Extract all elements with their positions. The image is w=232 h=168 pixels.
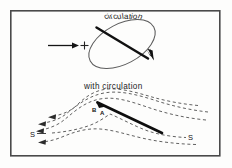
point-label-b: B <box>92 107 96 113</box>
streamline-upper-2-arrow <box>38 121 46 126</box>
chord-line <box>97 28 149 59</box>
figure-root: circulation circulation with circulation… <box>0 0 232 168</box>
streamline-lower-2-arrow <box>38 140 46 145</box>
streamline-upper-2 <box>44 92 208 123</box>
stagnation-label-left: S <box>30 130 35 139</box>
streamline-lower-1 <box>52 114 186 138</box>
plus-marker <box>81 42 89 50</box>
point-label-a: A <box>100 110 104 116</box>
streamline-upper-1-arrow <box>36 128 44 133</box>
stagnation-label-right: S <box>188 133 193 142</box>
airfoil-plate <box>98 103 163 134</box>
streamline-upper-3-arrow <box>48 114 56 119</box>
figure-canvas <box>0 0 232 168</box>
freestream-arrow-head <box>72 42 79 48</box>
